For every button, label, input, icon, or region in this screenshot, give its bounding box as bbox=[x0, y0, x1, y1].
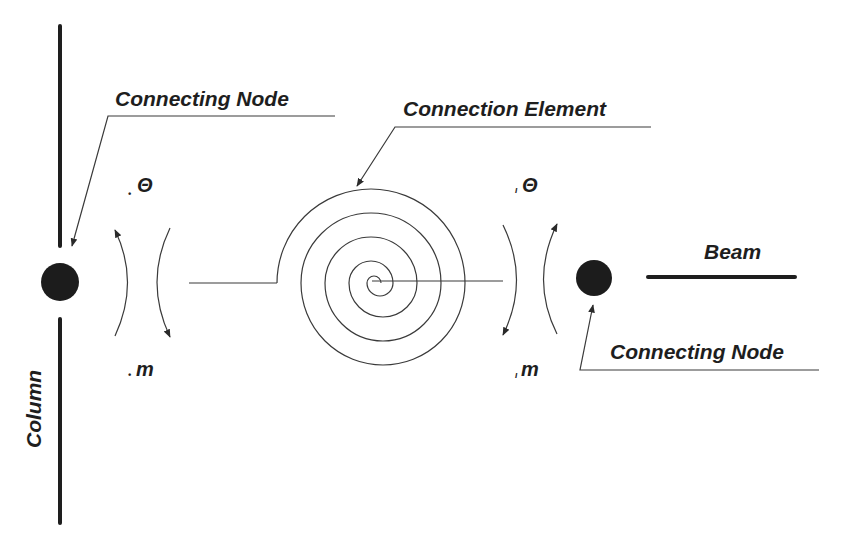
connection-diagram: Column Connecting Node • Θ • m Connectio… bbox=[0, 0, 850, 546]
right-connecting-node bbox=[576, 260, 612, 296]
connection-element: Connection Element bbox=[189, 97, 651, 365]
left-theta-subscript: • bbox=[128, 189, 131, 199]
right-moment-arc-arrow bbox=[503, 225, 517, 335]
spiral-spring bbox=[277, 189, 465, 365]
left-node-callout: Connecting Node bbox=[72, 87, 335, 246]
right-connecting-node-label: Connecting Node bbox=[610, 340, 784, 363]
left-rotation-arrows: • Θ • m bbox=[115, 174, 170, 380]
right-rotation-arrows: ı Θ ı m bbox=[503, 174, 557, 380]
right-moment-symbol: m bbox=[521, 358, 539, 380]
left-theta-arc-arrow bbox=[115, 230, 128, 336]
right-theta-subscript: ı bbox=[515, 185, 518, 195]
right-theta-symbol: Θ bbox=[522, 174, 538, 196]
beam-label: Beam bbox=[704, 240, 761, 263]
left-connecting-node bbox=[41, 263, 79, 301]
right-theta-arc-arrow bbox=[544, 224, 558, 334]
left-moment-symbol: m bbox=[136, 358, 154, 380]
column-label: Column bbox=[22, 370, 45, 448]
connection-element-label: Connection Element bbox=[403, 97, 607, 120]
left-connecting-node-label: Connecting Node bbox=[115, 87, 289, 110]
right-moment-subscript: ı bbox=[515, 370, 518, 380]
left-moment-subscript: • bbox=[128, 370, 131, 380]
beam: Beam bbox=[648, 240, 795, 277]
right-node-callout: Connecting Node bbox=[580, 305, 819, 370]
left-moment-arc-arrow bbox=[157, 228, 170, 337]
left-theta-symbol: Θ bbox=[137, 174, 153, 196]
connection-element-leader-arrow bbox=[357, 127, 651, 186]
